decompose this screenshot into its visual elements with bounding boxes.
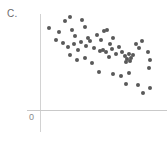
data-point xyxy=(80,18,84,22)
data-point xyxy=(104,50,108,54)
data-point xyxy=(88,39,92,43)
data-point xyxy=(124,82,128,86)
data-point xyxy=(76,48,80,52)
data-point xyxy=(110,47,114,51)
data-point xyxy=(73,34,77,38)
data-point xyxy=(63,19,67,23)
data-point xyxy=(137,46,141,50)
data-point xyxy=(119,74,123,78)
data-point xyxy=(83,56,87,60)
data-point xyxy=(66,45,70,49)
plot-area xyxy=(0,0,167,141)
data-point xyxy=(92,46,96,50)
data-point xyxy=(141,91,145,95)
data-point xyxy=(83,25,87,29)
data-point xyxy=(97,70,101,74)
data-point xyxy=(90,61,94,65)
data-point xyxy=(84,44,88,48)
data-point xyxy=(124,60,128,64)
data-point xyxy=(95,33,99,37)
data-point xyxy=(117,45,121,49)
data-point xyxy=(99,38,103,42)
data-point xyxy=(57,30,61,34)
data-point xyxy=(79,40,83,44)
data-point xyxy=(127,71,131,75)
data-point xyxy=(128,59,132,63)
data-point xyxy=(111,36,115,40)
data-point xyxy=(54,38,58,42)
data-point xyxy=(72,42,76,46)
data-point xyxy=(148,86,152,90)
data-point xyxy=(105,28,109,32)
data-point xyxy=(131,53,135,57)
data-point xyxy=(140,39,144,43)
scatter-plot-figure: C. 0 xyxy=(0,0,167,141)
data-point xyxy=(148,58,152,62)
data-point xyxy=(68,15,72,19)
data-point xyxy=(68,53,72,57)
data-point xyxy=(75,58,79,62)
data-point xyxy=(136,83,140,87)
data-point xyxy=(111,72,115,76)
data-point xyxy=(107,55,111,59)
data-point xyxy=(47,26,51,30)
data-point xyxy=(146,50,150,54)
data-point xyxy=(61,41,65,45)
data-point xyxy=(70,28,74,32)
data-point xyxy=(147,66,151,70)
data-point xyxy=(114,52,118,56)
data-point xyxy=(108,42,112,46)
